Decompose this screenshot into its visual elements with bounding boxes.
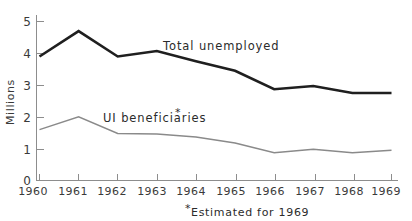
y-tick-label-3: 3 [23,79,31,93]
x-tick-label-1965: 1965 [216,185,246,198]
x-tick-label-1966: 1966 [255,185,285,198]
series-line-ui-beneficiaries [40,117,392,153]
y-tick-label-1: 1 [23,143,31,157]
x-tick-label-1967: 1967 [295,185,325,198]
series-annotation-ui-beneficiaries: UI beneficiaries [103,111,206,125]
footnote-text: Estimated for 1969 [191,206,309,219]
x-tick-label-1963: 1963 [137,185,167,198]
y-tick-label-5: 5 [23,15,31,29]
y-tick-label-4: 4 [23,47,31,61]
x-tick-label-1964: 1964 [176,185,206,198]
x-tick-label-1961: 1961 [58,185,88,198]
x-tick-label-1960: 1960 [18,185,48,198]
chart-container: 5 4 3 2 1 0 Millions 1960 1961 1962 1963… [0,0,412,221]
line-chart: 5 4 3 2 1 0 Millions 1960 1961 1962 1963… [0,0,412,221]
x-tick-label-1969: 1969 [371,185,401,198]
x-tick-label-1962: 1962 [97,185,127,198]
y-axis-title: Millions [4,79,17,125]
x-tick-label-1968: 1968 [334,185,364,198]
ui-beneficiaries-footnote-marker-icon: * [175,106,181,119]
series-annotation-total-unemployed: Total unemployed [162,39,279,53]
y-tick-label-2: 2 [23,111,31,125]
